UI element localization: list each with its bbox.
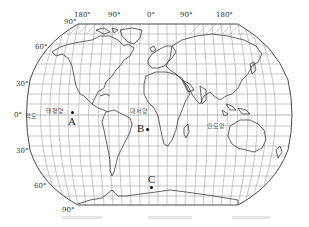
pacific-ocean-label: 태평양 <box>46 108 64 114</box>
lat-label-30s: 30° <box>16 148 28 155</box>
faded-caption-3 <box>232 216 270 219</box>
map-frame <box>27 24 293 205</box>
point-a-label: A <box>68 116 76 127</box>
lat-label-90n: 90° <box>64 19 76 26</box>
world-map: 180° 90° 0° 90° 180° 90° 60° 30° 0° 적도 3… <box>0 0 309 227</box>
point-b-label: B <box>137 123 144 134</box>
lat-label-60s: 60° <box>34 183 46 190</box>
lon-label-180e: 180° <box>216 12 233 19</box>
indian-ocean-label: 인도양 <box>207 123 225 129</box>
lon-label-90w: 90° <box>108 12 120 19</box>
lon-label-180w: 180° <box>74 12 91 19</box>
equator-name-label: 적도 <box>25 113 37 119</box>
africa <box>144 72 190 146</box>
faded-caption-2 <box>148 216 192 219</box>
point-b-marker <box>146 128 149 131</box>
lat-label-60n: 60° <box>35 44 47 51</box>
lat-label-30n: 30° <box>16 81 28 88</box>
greenland <box>120 28 142 44</box>
lat-label-90s: 90° <box>62 207 74 214</box>
atlantic-ocean-label: 대서양 <box>130 108 148 114</box>
point-c-marker <box>150 186 153 189</box>
lon-label-0: 0° <box>147 12 155 19</box>
lat-label-equator: 0° <box>14 112 22 119</box>
point-a-marker <box>71 111 74 114</box>
faded-caption-1 <box>62 216 102 219</box>
point-c-label: C <box>148 174 155 185</box>
lon-label-90e: 90° <box>180 12 192 19</box>
